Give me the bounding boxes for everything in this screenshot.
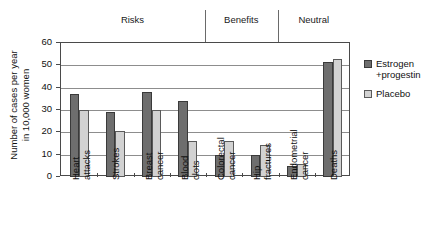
y-tick-label: 20 xyxy=(26,125,52,136)
x-tick-mark xyxy=(242,173,243,177)
section-header: Neutral xyxy=(278,14,351,25)
legend-label: Placebo xyxy=(376,88,421,99)
x-axis-label: Hip fractures xyxy=(251,143,273,180)
x-tick-mark xyxy=(170,173,171,177)
legend: Estrogen +progestinPlacebo xyxy=(364,58,421,107)
y-tick-label: 60 xyxy=(26,36,52,47)
y-tick-label: 30 xyxy=(26,103,52,114)
y-tick-mark xyxy=(56,131,60,132)
y-tick-mark xyxy=(56,64,60,65)
y-tick-mark xyxy=(56,42,60,43)
legend-item: Placebo xyxy=(364,88,421,99)
gridline xyxy=(61,110,349,111)
y-tick-label: 0 xyxy=(26,170,52,181)
y-tick-label: 40 xyxy=(26,81,52,92)
y-tick-mark xyxy=(56,109,60,110)
x-tick-mark xyxy=(206,173,207,177)
gridline xyxy=(61,88,349,89)
section-header: Risks xyxy=(60,14,205,25)
x-tick-mark xyxy=(97,173,98,177)
x-tick-mark xyxy=(134,173,135,177)
x-axis-label: Breast cancer xyxy=(143,151,165,180)
x-axis-label: Heart attacks xyxy=(70,150,92,180)
y-tick-label: 50 xyxy=(26,58,52,69)
y-tick-mark xyxy=(56,87,60,88)
x-axis-label: Endometrial cancer xyxy=(288,129,310,180)
x-tick-mark xyxy=(315,173,316,177)
legend-swatch xyxy=(364,90,372,98)
x-axis-label: Strokes xyxy=(110,148,121,180)
y-tick-mark xyxy=(56,176,60,177)
legend-label: Estrogen +progestin xyxy=(376,58,421,80)
x-axis-label: Blood clots xyxy=(179,156,201,180)
legend-swatch xyxy=(364,60,372,68)
y-tick-label: 10 xyxy=(26,148,52,159)
gridline xyxy=(61,65,349,66)
legend-item: Estrogen +progestin xyxy=(364,58,421,80)
x-tick-mark xyxy=(279,173,280,177)
bar-chart: Number of cases per year in 10,000 women… xyxy=(0,0,444,248)
y-tick-mark xyxy=(56,154,60,155)
x-axis-label: Deaths xyxy=(328,150,339,180)
x-axis-label: Colorectal cancer xyxy=(215,137,237,180)
section-header: Benefits xyxy=(205,14,278,25)
